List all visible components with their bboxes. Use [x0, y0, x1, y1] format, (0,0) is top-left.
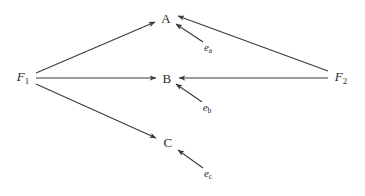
error-eb-subscript: b [208, 106, 212, 115]
edge-F2-A [178, 16, 328, 71]
node-label-c: C [164, 136, 173, 149]
edge-ec-C [178, 150, 203, 168]
edge-group [36, 16, 328, 168]
factor-f2-subscript: 2 [343, 76, 347, 86]
diagram-edges-canvas [0, 0, 365, 196]
factor-label-f1: F1 [17, 70, 29, 85]
node-label-b: B [163, 72, 172, 85]
edge-F1-C [36, 84, 156, 138]
error-label-ec: ec [204, 168, 212, 181]
error-label-eb: eb [203, 102, 212, 115]
error-ec-subscript: c [209, 172, 212, 181]
error-ea-subscript: a [209, 46, 212, 55]
error-label-ea: ea [204, 42, 212, 55]
factor-f2-letter: F [335, 69, 343, 84]
edge-ea-A [176, 24, 203, 42]
factor-f1-subscript: 1 [25, 76, 29, 86]
path-diagram: A B C F1 F2 ea eb ec [0, 0, 365, 196]
factor-f1-letter: F [17, 69, 25, 84]
edge-eb-B [176, 84, 202, 102]
factor-label-f2: F2 [335, 70, 347, 85]
node-label-a: A [161, 12, 171, 25]
edge-F1-A [36, 22, 155, 73]
